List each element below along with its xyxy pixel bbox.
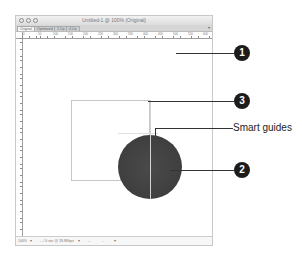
tab-4-up[interactable]: 4-Up bbox=[66, 26, 80, 31]
status-value: -- bbox=[102, 237, 104, 245]
ruler-label: 400 bbox=[143, 32, 148, 36]
ruler-label: 50 bbox=[38, 32, 41, 36]
vertical-ruler[interactable] bbox=[16, 38, 23, 237]
callout-2-leader bbox=[170, 170, 234, 171]
ruler-label: 250 bbox=[98, 32, 103, 36]
ruler-label: 150 bbox=[68, 32, 73, 36]
panel-menu-icon[interactable]: ▾ bbox=[208, 25, 210, 31]
horizontal-ruler[interactable]: 0 50 100 150 200 250 300 350 400 450 500… bbox=[22, 32, 212, 39]
callout-3-badge: 3 bbox=[234, 93, 250, 109]
smart-guides-leader-drop bbox=[155, 128, 156, 136]
ruler-label: 0 bbox=[23, 32, 25, 36]
smart-guides-label: Smart guides bbox=[233, 122, 292, 133]
callout-1-badge: 1 bbox=[234, 45, 250, 61]
ruler-label: 450 bbox=[158, 32, 163, 36]
download-time: -- / 0 sec @ 28.8Kbps bbox=[40, 237, 74, 245]
image-size: -- bbox=[88, 237, 90, 245]
view-tabs: Original Optimized 2-Up 4-Up ▾ bbox=[16, 25, 212, 32]
tab-optimized[interactable]: Optimized bbox=[34, 26, 56, 31]
ruler-label: 200 bbox=[83, 32, 88, 36]
zoom-level-select[interactable]: 100% bbox=[18, 237, 27, 245]
status-dropdown-icon[interactable]: ▾ bbox=[114, 237, 116, 245]
smart-guide-vertical bbox=[150, 100, 151, 199]
callout-1-leader bbox=[176, 53, 234, 54]
tab-original[interactable]: Original bbox=[17, 26, 35, 31]
callout-2-badge: 2 bbox=[234, 162, 250, 178]
zoom-dropdown-icon[interactable]: ▾ bbox=[30, 237, 32, 245]
ruler-label: 300 bbox=[113, 32, 118, 36]
ruler-label: 100 bbox=[53, 32, 58, 36]
ruler-label: 550 bbox=[188, 32, 193, 36]
ruler-label: 350 bbox=[128, 32, 133, 36]
status-bar: 100% ▾ -- / 0 sec @ 28.8Kbps ▾ -- -- ▾ bbox=[16, 236, 212, 245]
callout-3-leader bbox=[148, 101, 234, 102]
smart-guides-leader bbox=[155, 128, 233, 129]
ruler-label: 600 bbox=[203, 32, 208, 36]
download-dropdown-icon[interactable]: ▾ bbox=[78, 237, 80, 245]
smart-guide-horizontal bbox=[118, 133, 158, 134]
ruler-label: 500 bbox=[173, 32, 178, 36]
window-title: Untitled-1 @ 100% (Original) bbox=[16, 16, 212, 25]
